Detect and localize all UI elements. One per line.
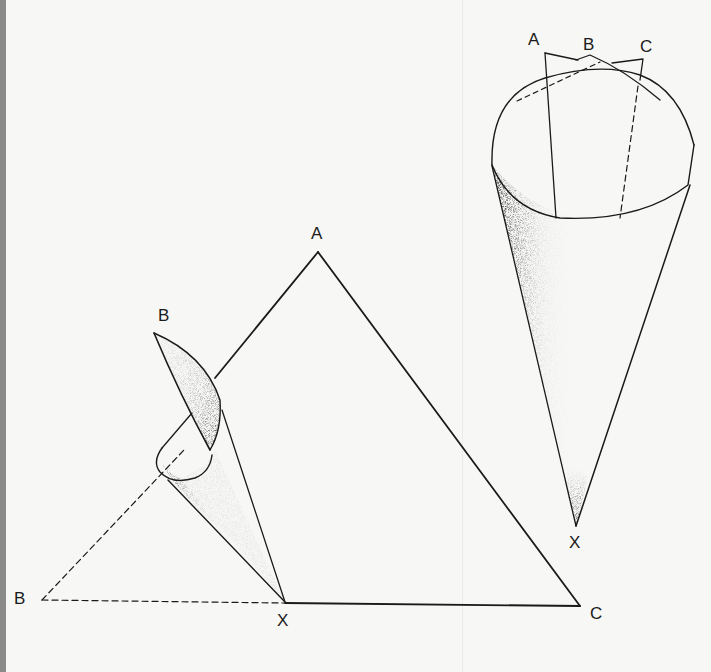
edge-curl-inner	[162, 413, 192, 448]
hidden-seam	[620, 86, 638, 218]
cone-body-shading-wide	[492, 165, 620, 526]
seam-a	[545, 53, 556, 218]
label-a-left: A	[311, 225, 322, 242]
right-diagram	[492, 53, 694, 526]
label-b-right: B	[583, 36, 594, 53]
label-x-left: X	[277, 612, 288, 629]
label-b-curl: B	[158, 307, 169, 324]
hidden-rim-edge	[517, 62, 600, 101]
label-c-right: C	[640, 38, 652, 55]
curl-flap-shading	[154, 333, 220, 450]
cone-rim-upper-arc	[492, 69, 694, 165]
dashed-edge-b-x	[42, 600, 284, 603]
cone-construction-figure	[0, 0, 711, 672]
dashed-edge-b-a	[42, 450, 184, 600]
label-a-right: A	[528, 31, 539, 48]
flap-a-b-c	[545, 53, 578, 60]
label-c: C	[590, 605, 602, 622]
label-b-flat: B	[14, 590, 25, 607]
edge-a-curl	[215, 252, 318, 378]
left-diagram	[42, 252, 580, 606]
curl-cone-shading-soft	[180, 450, 285, 602]
edge-x-c	[285, 603, 580, 606]
label-x-right: X	[569, 534, 580, 551]
